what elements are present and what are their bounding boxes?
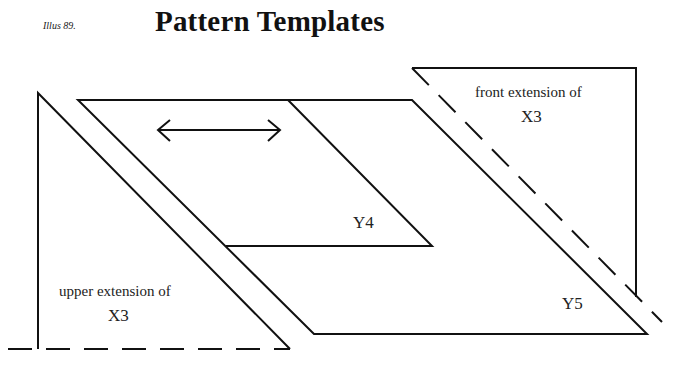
pattern-diagram: [0, 0, 679, 372]
upper-extension-label: upper extension of: [59, 283, 171, 300]
upper-extension-ref-label: X3: [108, 306, 129, 326]
front-extension-ref-label: X3: [521, 107, 542, 127]
double-headed-arrow-icon: [158, 120, 280, 141]
upper-extension-triangle: [8, 93, 290, 349]
front-extension-label: front extension of: [475, 84, 582, 101]
y5-label: Y5: [562, 294, 583, 314]
y4-template: [226, 100, 432, 246]
y4-label: Y4: [353, 213, 374, 233]
